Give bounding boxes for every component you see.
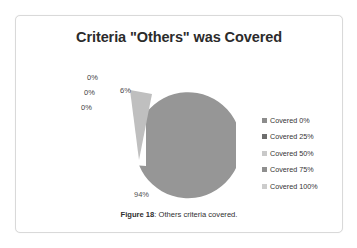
legend-swatch-icon: [262, 184, 267, 189]
legend-label: Covered 0%: [270, 116, 310, 125]
chart-legend: Covered 0% Covered 25% Covered 50% Cover…: [262, 112, 354, 195]
pie-chart: 0% 0% 0% 6% 94%: [56, 54, 236, 209]
chart-title: Criteria "Others" was Covered: [16, 29, 342, 45]
pie-label-zero-1: 0%: [87, 73, 98, 82]
legend-swatch-icon: [262, 151, 267, 156]
legend-swatch-icon: [262, 167, 267, 172]
legend-item-covered-100: Covered 100%: [262, 178, 354, 195]
legend-swatch-icon: [262, 134, 267, 139]
legend-label: Covered 100%: [270, 182, 318, 191]
pie-label-zero-2: 0%: [84, 88, 95, 97]
figure-caption-text: Others criteria covered.: [159, 210, 238, 219]
legend-swatch-icon: [262, 118, 267, 123]
legend-item-covered-25: Covered 25%: [262, 129, 354, 146]
legend-item-covered-50: Covered 50%: [262, 145, 354, 162]
legend-item-covered-0: Covered 0%: [262, 112, 354, 129]
pie-slice-covered-100: [139, 92, 236, 198]
legend-label: Covered 50%: [270, 149, 314, 158]
legend-label: Covered 25%: [270, 132, 314, 141]
pie-label-ninetyfour: 94%: [134, 190, 149, 199]
figure-caption: Figure 18: Others criteria covered.: [16, 210, 342, 219]
figure-caption-number: Figure 18: [121, 210, 155, 219]
figure-card: Criteria "Others" was Covered 0% 0% 0% 6…: [15, 15, 343, 233]
legend-label: Covered 75%: [270, 165, 314, 174]
legend-item-covered-75: Covered 75%: [262, 162, 354, 179]
pie-label-zero-3: 0%: [81, 103, 92, 112]
pie-chart-svg: [56, 54, 236, 209]
pie-label-six: 6%: [120, 86, 131, 95]
